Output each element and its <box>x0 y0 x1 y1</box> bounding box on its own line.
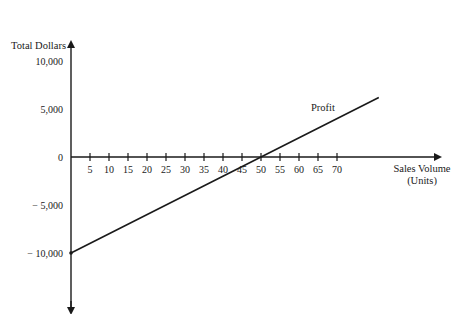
x-axis-label: Sales Volume <box>393 163 450 174</box>
svg-text:40: 40 <box>218 164 228 175</box>
svg-text:50: 50 <box>256 164 266 175</box>
svg-text:20: 20 <box>142 164 152 175</box>
profit-chart: 510152025303540455055606570 10,0005,0000… <box>0 0 451 314</box>
svg-text:55: 55 <box>275 164 285 175</box>
svg-text:70: 70 <box>332 164 342 175</box>
svg-text:5,000: 5,000 <box>41 104 64 115</box>
svg-text:65: 65 <box>313 164 323 175</box>
svg-text:10: 10 <box>104 164 114 175</box>
y-axis-label: Total Dollars <box>11 40 66 51</box>
svg-text:30: 30 <box>180 164 190 175</box>
svg-text:− 10,000: − 10,000 <box>27 248 63 259</box>
svg-text:5: 5 <box>88 164 93 175</box>
x-axis-label-units: (Units) <box>407 175 437 187</box>
axes <box>71 44 438 311</box>
profit-line <box>69 97 379 254</box>
svg-text:10,000: 10,000 <box>36 56 64 67</box>
svg-text:0: 0 <box>58 152 63 163</box>
svg-text:60: 60 <box>294 164 304 175</box>
svg-text:15: 15 <box>123 164 133 175</box>
y-axis-ticks: 10,0005,0000− 5,000− 10,000 <box>27 56 63 259</box>
svg-text:35: 35 <box>199 164 209 175</box>
svg-text:− 5,000: − 5,000 <box>32 200 63 211</box>
svg-text:25: 25 <box>161 164 171 175</box>
profit-annotation: Profit <box>311 102 335 113</box>
